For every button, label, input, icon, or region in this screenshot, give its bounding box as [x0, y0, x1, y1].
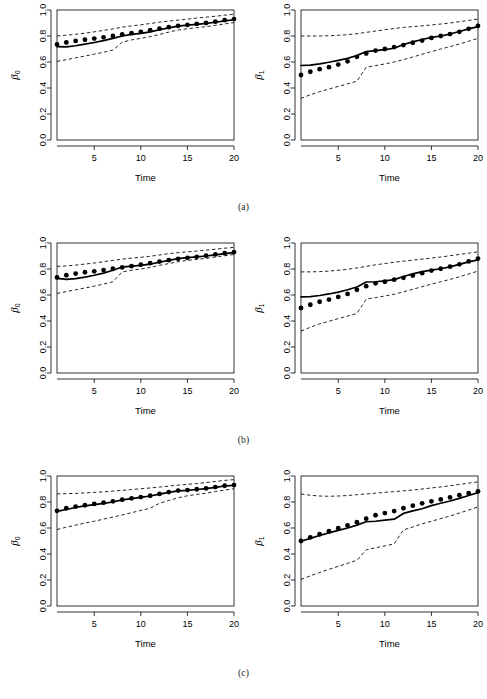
- x-axis: 5101520: [301, 612, 483, 629]
- panel-row-c: 0.00.20.40.60.81.0β05101520Time 0.00.20.…: [0, 466, 487, 699]
- series-lower-confidence-band: [301, 507, 478, 579]
- data-point: [364, 284, 369, 289]
- x-tick-label: 10: [380, 386, 390, 396]
- series-estimate: [57, 253, 234, 280]
- plot-c-beta1: 0.00.20.40.60.81.0β15101520Time: [244, 466, 487, 671]
- plot-b-beta0: 0.00.20.40.60.81.0β05101520Time: [0, 233, 243, 438]
- y-tick-label: 0.2: [38, 341, 48, 354]
- y-tick-label: 0.2: [38, 574, 48, 587]
- y-tick-label: 0.4: [282, 548, 292, 561]
- y-tick-label: 0.4: [38, 315, 48, 328]
- series-true-values-points: [55, 483, 237, 514]
- data-point: [92, 36, 97, 41]
- x-tick-label: 20: [229, 619, 239, 629]
- x-tick-label: 10: [380, 619, 390, 629]
- data-point: [373, 513, 378, 518]
- data-point: [73, 271, 78, 276]
- plot-frame: [301, 10, 478, 140]
- data-point: [327, 65, 332, 70]
- series-true-values-points: [299, 489, 481, 543]
- x-tick-label: 15: [426, 153, 436, 163]
- row-caption-c: (c): [0, 668, 487, 678]
- data-point: [364, 516, 369, 521]
- row-caption-a: (a): [0, 202, 487, 212]
- data-point: [73, 39, 78, 44]
- y-tick-label: 0.8: [38, 496, 48, 509]
- y-axis: 0.00.20.40.60.81.0: [38, 470, 51, 613]
- x-axis-title: Time: [379, 638, 400, 649]
- x-tick-label: 5: [92, 386, 97, 396]
- plot-a-beta1: 0.00.20.40.60.81.0β15101520Time: [244, 0, 487, 205]
- y-tick-label: 0.0: [38, 367, 48, 380]
- data-point: [83, 37, 88, 42]
- data-point: [457, 493, 462, 498]
- y-axis-title: β1: [252, 536, 265, 546]
- y-axis-title: β0: [8, 536, 21, 546]
- plot-b-beta1: 0.00.20.40.60.81.0β15101520Time: [244, 233, 487, 438]
- y-axis-title: β0: [8, 303, 21, 313]
- plot-c-beta0: 0.00.20.40.60.81.0β05101520Time: [0, 466, 243, 671]
- y-tick-label: 1.0: [38, 470, 48, 483]
- series-true-values-points: [299, 23, 481, 77]
- y-axis: 0.00.20.40.60.81.0: [282, 470, 295, 613]
- y-tick-label: 1.0: [38, 237, 48, 250]
- data-point: [448, 495, 453, 500]
- y-tick-label: 0.8: [38, 263, 48, 276]
- data-point: [345, 59, 350, 64]
- data-point: [299, 306, 304, 311]
- y-tick-label: 0.4: [282, 82, 292, 95]
- x-axis-title: Time: [135, 172, 156, 183]
- x-tick-label: 5: [336, 619, 341, 629]
- y-tick-label: 0.2: [38, 108, 48, 121]
- x-axis: 5101520: [57, 612, 239, 629]
- x-tick-label: 10: [136, 619, 146, 629]
- y-tick-label: 0.8: [38, 30, 48, 43]
- series-estimate: [57, 485, 234, 511]
- data-point: [64, 40, 69, 45]
- x-tick-label: 15: [182, 386, 192, 396]
- data-point: [392, 509, 397, 514]
- x-tick-label: 10: [380, 153, 390, 163]
- plot-frame: [301, 476, 478, 606]
- x-tick-label: 20: [229, 153, 239, 163]
- x-axis: 5101520: [301, 146, 483, 163]
- y-tick-label: 0.0: [282, 600, 292, 613]
- figure-panel-grid: 0.00.20.40.60.81.0β05101520Time 0.00.20.…: [0, 0, 487, 699]
- y-axis-title: β1: [252, 303, 265, 313]
- y-tick-label: 0.6: [38, 56, 48, 69]
- panel-c-beta0: 0.00.20.40.60.81.0β05101520Time: [0, 466, 243, 671]
- y-tick-label: 0.6: [282, 289, 292, 302]
- panel-row-a: 0.00.20.40.60.81.0β05101520Time 0.00.20.…: [0, 0, 487, 233]
- data-point: [336, 295, 341, 300]
- y-axis-title: β1: [252, 70, 265, 80]
- series-true-values-points: [299, 256, 481, 310]
- y-tick-label: 1.0: [282, 470, 292, 483]
- data-point: [401, 506, 406, 511]
- y-tick-label: 0.8: [282, 30, 292, 43]
- plot-frame: [57, 10, 234, 140]
- series-lower-confidence-band: [57, 489, 234, 530]
- x-tick-label: 20: [473, 386, 483, 396]
- data-point: [429, 499, 434, 504]
- panel-row-b: 0.00.20.40.60.81.0β05101520Time 0.00.20.…: [0, 233, 487, 466]
- y-tick-label: 0.2: [282, 108, 292, 121]
- y-tick-label: 1.0: [282, 237, 292, 250]
- y-tick-label: 0.2: [282, 574, 292, 587]
- data-point: [83, 270, 88, 275]
- y-axis: 0.00.20.40.60.81.0: [282, 4, 295, 147]
- y-axis-title: β0: [8, 70, 21, 80]
- y-tick-label: 0.6: [38, 522, 48, 535]
- x-axis: 5101520: [301, 379, 483, 396]
- y-tick-label: 0.0: [38, 600, 48, 613]
- x-tick-label: 20: [473, 153, 483, 163]
- plot-frame: [57, 476, 234, 606]
- data-point: [101, 268, 106, 273]
- series-upper-confidence-band: [301, 252, 478, 272]
- x-tick-label: 5: [336, 153, 341, 163]
- plot-frame: [301, 243, 478, 373]
- data-point: [317, 67, 322, 72]
- y-tick-label: 0.6: [282, 56, 292, 69]
- y-tick-label: 0.0: [282, 367, 292, 380]
- plot-frame: [57, 243, 234, 373]
- y-tick-label: 0.4: [282, 315, 292, 328]
